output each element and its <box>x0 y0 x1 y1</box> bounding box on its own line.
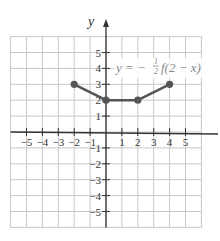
x-tick-label: 2 <box>135 136 141 148</box>
function-graph: −5−4−3−2−11234554321−1−2−3−4−5 y y = − 1… <box>0 0 220 241</box>
data-point <box>166 81 173 88</box>
y-tick-label: −4 <box>89 190 101 202</box>
x-tick-label: −2 <box>68 136 80 148</box>
x-tick-label: −4 <box>37 136 49 148</box>
equation-fraction-denominator: 2 <box>154 67 158 76</box>
y-tick-label: 3 <box>96 78 102 90</box>
data-point <box>134 97 141 104</box>
y-axis-label: y <box>86 14 95 29</box>
y-tick-label: −2 <box>89 158 101 170</box>
equation-fraction-numerator: 1 <box>154 57 158 66</box>
axes <box>11 19 218 227</box>
equation-prefix: y = − <box>114 60 146 75</box>
x-tick-label: 4 <box>167 136 173 148</box>
y-tick-label: −3 <box>89 174 101 186</box>
x-tick-label: −5 <box>21 136 33 148</box>
y-tick-label: −5 <box>89 206 101 218</box>
equation-annotation: y = − 1 2 f(2 − x) <box>114 57 218 78</box>
data-point <box>71 81 78 88</box>
x-tick-label: 1 <box>119 136 125 148</box>
x-tick-label: 5 <box>183 136 189 148</box>
y-tick-label: −1 <box>89 142 101 154</box>
y-tick-label: 5 <box>96 47 102 59</box>
data-point <box>102 97 109 104</box>
equation-suffix: f(2 − x) <box>161 60 201 75</box>
x-tick-label: −3 <box>52 136 64 148</box>
y-tick-label: 1 <box>96 110 102 122</box>
y-tick-label: 4 <box>96 62 102 74</box>
x-tick-label: 3 <box>151 136 157 148</box>
